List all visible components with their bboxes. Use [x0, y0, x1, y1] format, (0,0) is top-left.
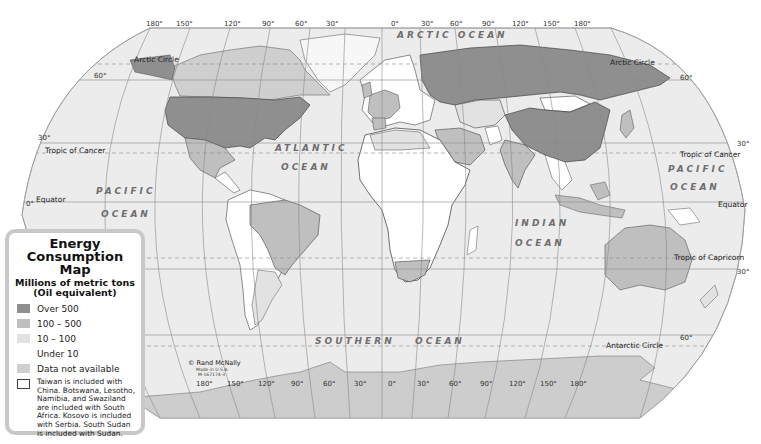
- legend-title-line2: Consumption Map: [15, 250, 135, 276]
- lon-label: 30°: [354, 380, 366, 388]
- atlantic-ocean-label-1: ATLANTIC: [275, 143, 348, 153]
- pacific-ocean-west-label-2: OCEAN: [101, 209, 151, 219]
- lon-label: 0°: [391, 20, 399, 28]
- lon-label: 120°: [512, 20, 529, 28]
- legend-label: Data not available: [37, 364, 120, 374]
- lon-label: 180°: [146, 20, 163, 28]
- lon-label: 150°: [540, 380, 557, 388]
- tropic-cancer-label-west: Tropic of Cancer: [45, 146, 105, 155]
- lon-label: 60°: [323, 380, 335, 388]
- legend-panel: Energy Consumption Map Millions of metri…: [5, 229, 145, 435]
- antarctic-circle-label: Antarctic Circle: [606, 341, 663, 350]
- lat-label: 60°: [680, 334, 692, 342]
- lon-label: 180°: [570, 380, 587, 388]
- lon-label: 0°: [388, 380, 396, 388]
- lon-label: 60°: [450, 20, 462, 28]
- pacific-ocean-east-label-2: OCEAN: [670, 182, 720, 192]
- lat-label: 60°: [680, 74, 692, 82]
- legend-note: Taiwan is included with China. Botswana,…: [17, 378, 135, 438]
- lon-label: 120°: [509, 380, 526, 388]
- atlantic-ocean-label-2: OCEAN: [281, 162, 331, 172]
- legend-swatch: [17, 304, 30, 313]
- equator-label-west: Equator: [36, 195, 65, 204]
- indian-ocean-label-1: INDIAN: [515, 218, 569, 228]
- lon-label: 180°: [196, 380, 213, 388]
- uk: [362, 82, 372, 98]
- lon-label: 30°: [421, 20, 433, 28]
- lat-label: 30°: [737, 268, 749, 276]
- credit-copyright: © Rand McNally: [188, 359, 241, 367]
- map-credit: © Rand McNally Made in U.S.A. M-167174-3: [188, 359, 241, 377]
- lon-label: 30°: [326, 20, 338, 28]
- lon-label: 150°: [543, 20, 560, 28]
- lon-label: 150°: [176, 20, 193, 28]
- equator-label-east: Equator: [718, 200, 747, 209]
- arctic-circle-label-west: Arctic Circle: [134, 55, 179, 64]
- legend-item-no-data: Data not available: [17, 361, 135, 376]
- indian-ocean-label-2: OCEAN: [515, 238, 565, 248]
- arctic-circle-label-east: Arctic Circle: [610, 58, 655, 67]
- legend-item-under-10: Under 10: [17, 346, 135, 361]
- legend-label: 10 – 100: [37, 334, 76, 344]
- lon-label: 90°: [291, 380, 303, 388]
- legend-swatch: [17, 364, 30, 373]
- lon-label: 90°: [262, 20, 274, 28]
- tropic-capricorn-label: Tropic of Capricorn: [674, 253, 744, 262]
- lon-label: 90°: [480, 380, 492, 388]
- pacific-ocean-east-label-1: PACIFIC: [668, 164, 728, 174]
- legend-note-box: [17, 379, 30, 389]
- legend-item-100-500: 100 – 500: [17, 316, 135, 331]
- tropic-cancer-label-east: Tropic of Cancer: [680, 150, 740, 159]
- lat-label: 60°: [94, 72, 106, 80]
- credit-code: M-167174-3: [198, 372, 241, 377]
- southern-ocean-label-1: SOUTHERN: [315, 336, 395, 346]
- lon-label: 120°: [224, 20, 241, 28]
- lon-label: 90°: [482, 20, 494, 28]
- lat-label: 30°: [737, 140, 749, 148]
- lon-label: 120°: [258, 380, 275, 388]
- pacific-ocean-west-label-1: PACIFIC: [96, 186, 156, 196]
- legend-note-text: Taiwan is included with China. Botswana,…: [37, 378, 135, 438]
- legend-item-10-100: 10 – 100: [17, 331, 135, 346]
- legend-label: Over 500: [37, 304, 79, 314]
- legend-label: Under 10: [37, 349, 79, 359]
- legend-subtitle-line2: (Oil equivalent): [15, 288, 135, 298]
- lon-label: 30°: [417, 380, 429, 388]
- lat-label: 0°: [26, 200, 34, 208]
- legend-swatch: [17, 319, 30, 328]
- lon-label: 60°: [295, 20, 307, 28]
- lon-label: 60°: [449, 380, 461, 388]
- lon-label: 180°: [574, 20, 591, 28]
- legend-item-over-500: Over 500: [17, 301, 135, 316]
- lat-label: 30°: [38, 134, 50, 142]
- legend-swatch: [17, 334, 30, 343]
- legend-label: 100 – 500: [37, 319, 82, 329]
- arctic-ocean-label: ARCTIC OCEAN: [397, 30, 508, 40]
- iberia: [372, 118, 386, 130]
- lon-label: 150°: [227, 380, 244, 388]
- southern-ocean-label-2: OCEAN: [415, 336, 465, 346]
- legend-swatch: [17, 349, 30, 358]
